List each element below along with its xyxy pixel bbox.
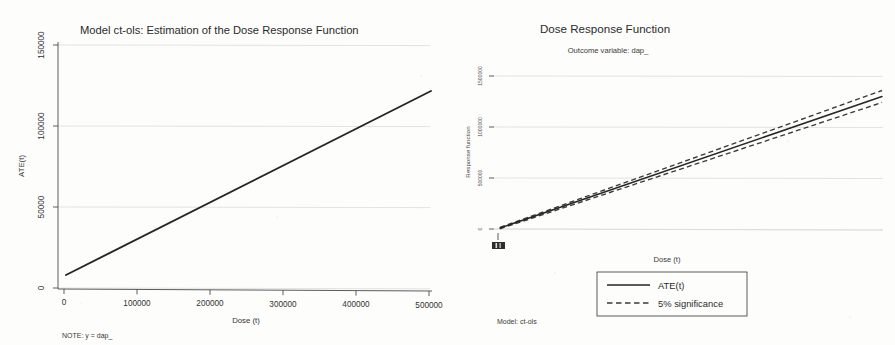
- right-ci-lower-line: [500, 103, 882, 229]
- left-x-axis-label: Dose (t): [232, 316, 260, 325]
- left-x-tick-label-500000: 500000: [415, 301, 443, 310]
- right-y-tickmarks: [489, 76, 494, 229]
- left-x-axis: [58, 289, 432, 291]
- left-note: NOTE: y = dap_: [62, 332, 112, 340]
- legend-border: [597, 272, 747, 316]
- right-plot-panel: Dose Response Function Outcome variable:…: [445, 0, 895, 345]
- left-gridlines: [58, 45, 430, 289]
- right-ate-line: [500, 97, 882, 229]
- right-legend[interactable]: ATE(t) 5% significance: [597, 272, 747, 316]
- left-plot-title: Model ct-ols: Estimation of the Dose Res…: [80, 24, 359, 36]
- left-x-tick-label-0: 0: [62, 298, 67, 307]
- legend-label-significance: 5% significance: [658, 298, 723, 309]
- left-plot-svg: Model ct-ols: Estimation of the Dose Res…: [0, 0, 450, 345]
- right-plot-svg: Dose Response Function Outcome variable:…: [445, 0, 895, 345]
- left-plot-panel: Model ct-ols: Estimation of the Dose Res…: [0, 0, 450, 345]
- right-plot-title: Dose Response Function: [540, 22, 670, 35]
- right-ci-upper-line: [500, 91, 882, 228]
- left-ate-line: [66, 91, 431, 275]
- left-y-tick-label-0: 0: [37, 285, 46, 290]
- figure-page: Model ct-ols: Estimation of the Dose Res…: [0, 0, 895, 345]
- left-x-tick-label-200000: 200000: [196, 299, 224, 308]
- right-baseline: [493, 229, 883, 230]
- left-y-axis-label: ATE(t): [17, 155, 26, 177]
- left-y-tick-label-50000: 50000: [37, 195, 46, 218]
- left-y-tick-label-150000: 150000: [37, 31, 46, 59]
- right-plot-subtitle: Outcome variable: dap_: [568, 46, 649, 55]
- right-gridlines: [493, 76, 883, 230]
- right-note: Model: ct-ols: [497, 318, 537, 325]
- left-y-tickmarks: [53, 45, 58, 288]
- right-y-tick-label-1500000: 1500000: [477, 66, 483, 86]
- left-x-tick-label-400000: 400000: [342, 300, 370, 309]
- left-x-tick-label-300000: 300000: [269, 300, 297, 309]
- axis-artifact-marker: [492, 233, 505, 249]
- legend-label-ate: ATE(t): [658, 280, 684, 291]
- left-y-tick-label-100000: 100000: [37, 112, 46, 140]
- right-y-tick-label-500000: 500000: [477, 169, 483, 186]
- right-y-tick-label-0: 0: [477, 227, 483, 230]
- left-x-tick-label-100000: 100000: [123, 299, 151, 308]
- right-y-tick-label-1000000: 1000000: [477, 117, 483, 137]
- right-y-axis-label: Response function: [464, 126, 471, 178]
- right-x-axis-label: Dose (t): [653, 255, 680, 264]
